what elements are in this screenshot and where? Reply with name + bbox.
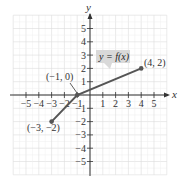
point-label-4-2: (4, 2) xyxy=(144,57,166,69)
data-point xyxy=(139,66,144,71)
function-label-callout: y = f(x) xyxy=(96,50,130,69)
y-tick-label: 2 xyxy=(81,63,86,74)
y-tick-label: 1 xyxy=(81,76,86,87)
y-tick-label: 3 xyxy=(81,50,86,61)
x-tick-label: −5 xyxy=(21,98,32,109)
y-tick-label: 5 xyxy=(81,23,86,34)
y-tick-label: −2 xyxy=(75,116,86,127)
y-tick-label: −4 xyxy=(75,143,86,154)
y-tick-label: 4 xyxy=(81,36,86,47)
x-tick-label: −3 xyxy=(46,98,57,109)
y-tick-label: −5 xyxy=(75,156,86,167)
y-tick-label: −3 xyxy=(75,129,86,140)
y-tick-label: −1 xyxy=(75,103,86,114)
axes xyxy=(10,13,170,176)
x-tick-label: 5 xyxy=(152,98,157,109)
point-label-neg3-neg2: (−3, −2) xyxy=(27,122,60,134)
data-point xyxy=(75,93,80,98)
y-axis-label: y xyxy=(85,1,91,13)
x-tick-label: 4 xyxy=(139,98,144,109)
graph: −5−4−3−2−11234554321−1−2−3−4−5 x y y = f… xyxy=(0,0,181,185)
y-axis-arrow-icon xyxy=(88,13,93,19)
x-tick-label: 1 xyxy=(100,98,105,109)
x-tick-label: 3 xyxy=(126,98,131,109)
x-tick-label: 2 xyxy=(113,98,118,109)
x-tick-label: −4 xyxy=(33,98,44,109)
point-label-neg1-0: (−1, 0) xyxy=(46,71,73,83)
function-label: y = f(x) xyxy=(98,51,130,63)
x-axis-label: x xyxy=(171,88,177,100)
